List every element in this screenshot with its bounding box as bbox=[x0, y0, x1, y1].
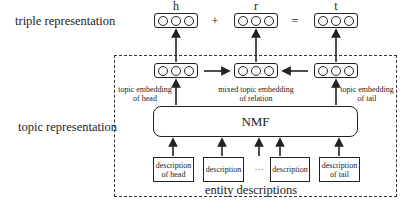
head-embedding-caption: topic embedding of head bbox=[115, 85, 175, 103]
ellipsis: ··· bbox=[252, 165, 266, 174]
description-of-tail-box: description of tail bbox=[319, 157, 360, 182]
description-box-1: description bbox=[203, 157, 244, 182]
vector-cell-icon bbox=[158, 66, 168, 76]
head-embedding-caption-line1: topic embedding bbox=[115, 85, 175, 94]
description-box-2: description bbox=[270, 157, 310, 182]
vector-cell-icon bbox=[158, 16, 168, 26]
vector-cell-icon bbox=[331, 16, 341, 26]
tail-symbol: t bbox=[326, 0, 346, 14]
description-of-head-box: description of head bbox=[153, 157, 194, 182]
plus-operator: + bbox=[208, 13, 222, 29]
vector-cell-icon bbox=[264, 66, 274, 76]
tail-topic-embedding-vector bbox=[314, 63, 358, 78]
description-box-2-label: description bbox=[272, 165, 308, 174]
head-vector bbox=[154, 13, 198, 28]
equals-operator: = bbox=[288, 13, 302, 29]
tail-embedding-caption: topic embedding of tail bbox=[339, 85, 395, 103]
vector-cell-icon bbox=[238, 16, 248, 26]
head-symbol: h bbox=[166, 0, 186, 14]
vector-cell-icon bbox=[264, 16, 274, 26]
vector-cell-icon bbox=[331, 66, 341, 76]
tail-embedding-caption-line1: topic embedding bbox=[339, 85, 395, 94]
relation-vector bbox=[234, 13, 278, 28]
vector-cell-icon bbox=[251, 66, 261, 76]
vector-cell-icon bbox=[318, 66, 328, 76]
tail-vector bbox=[314, 13, 358, 28]
vector-cell-icon bbox=[184, 66, 194, 76]
description-of-head-line1: description bbox=[156, 161, 192, 170]
vector-cell-icon bbox=[184, 16, 194, 26]
entity-descriptions-label: entity descriptions bbox=[205, 183, 297, 198]
vector-cell-icon bbox=[251, 16, 261, 26]
vector-cell-icon bbox=[344, 66, 354, 76]
relation-topic-embedding-vector bbox=[234, 63, 278, 78]
nmf-block: NMF bbox=[153, 106, 358, 137]
relation-embedding-caption: mixed topic embedding of relation bbox=[216, 85, 296, 103]
description-of-head-line2: of head bbox=[162, 170, 186, 179]
description-of-tail-line2: of tail bbox=[330, 170, 349, 179]
vector-cell-icon bbox=[171, 66, 181, 76]
relation-symbol: r bbox=[246, 0, 266, 14]
vector-cell-icon bbox=[318, 16, 328, 26]
head-embedding-caption-line2: of head bbox=[115, 94, 175, 103]
vector-cell-icon bbox=[344, 16, 354, 26]
description-box-1-label: description bbox=[206, 165, 242, 174]
relation-embedding-caption-line2: of relation bbox=[216, 94, 296, 103]
head-topic-embedding-vector bbox=[154, 63, 198, 78]
vector-cell-icon bbox=[238, 66, 248, 76]
tail-embedding-caption-line2: of tail bbox=[339, 94, 395, 103]
description-of-tail-line1: description bbox=[322, 161, 358, 170]
vector-cell-icon bbox=[171, 16, 181, 26]
relation-embedding-caption-line1: mixed topic embedding bbox=[216, 85, 296, 94]
nmf-label: NMF bbox=[241, 114, 269, 130]
